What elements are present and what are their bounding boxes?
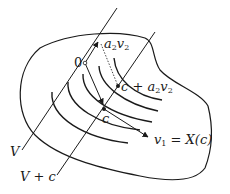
label-c: c bbox=[102, 112, 109, 125]
diagram-drawing bbox=[0, 0, 230, 194]
origin-point bbox=[83, 61, 87, 65]
subspace-line-V-plus-c bbox=[57, 32, 155, 175]
diagram-canvas: 0 a2v2 c + a2v2 c v1 = X(c) V V + c bbox=[0, 0, 230, 194]
label-origin: 0 bbox=[74, 56, 82, 69]
manifold-boundary bbox=[20, 33, 211, 179]
label-V-plus-c: V + c bbox=[20, 170, 56, 183]
label-V: V bbox=[10, 145, 19, 158]
label-a2v2: a2v2 bbox=[104, 37, 129, 52]
vector-v1-arrow bbox=[104, 109, 148, 137]
label-c-plus-a2v2: c + a2v2 bbox=[121, 80, 173, 95]
label-v1-equals-Xc: v1 = X(c) bbox=[154, 133, 212, 148]
point-c-plus-a2v2 bbox=[116, 84, 120, 88]
